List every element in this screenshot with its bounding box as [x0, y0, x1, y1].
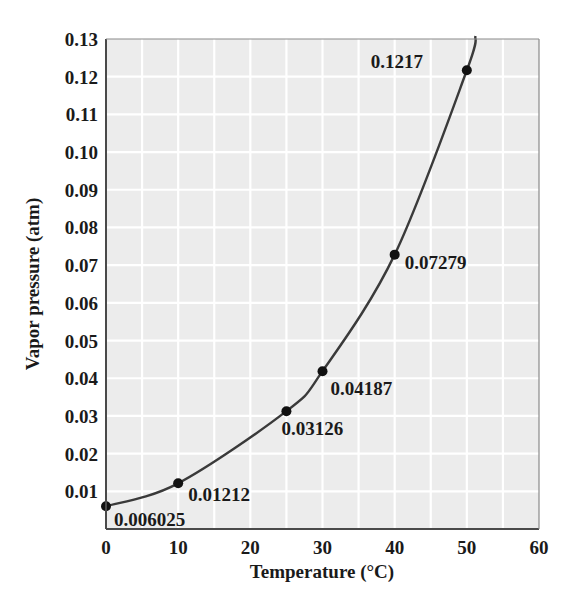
y-tick-label: 0.05	[65, 331, 98, 352]
y-tick-label: 0.07	[65, 255, 99, 276]
x-tick-label: 0	[101, 537, 111, 558]
y-tick-label: 0.09	[65, 180, 98, 201]
y-tick-label: 0.12	[65, 67, 98, 88]
y-axis-ticks: 0.010.020.030.040.050.060.070.080.090.10…	[65, 29, 99, 502]
y-tick-label: 0.13	[65, 29, 98, 50]
data-point	[318, 366, 328, 376]
y-tick-label: 0.02	[65, 444, 98, 465]
y-tick-label: 0.04	[65, 368, 99, 389]
x-tick-label: 20	[241, 537, 260, 558]
data-point-label: 0.04187	[331, 378, 393, 399]
y-tick-label: 0.08	[65, 217, 98, 238]
x-tick-label: 40	[385, 537, 404, 558]
vapor-pressure-chart: 0.0060250.012120.031260.041870.072790.12…	[0, 0, 571, 602]
data-point-label: 0.006025	[114, 509, 185, 530]
y-tick-label: 0.03	[65, 406, 98, 427]
x-tick-label: 50	[457, 537, 476, 558]
x-tick-label: 60	[530, 537, 549, 558]
data-point-label: 0.01212	[188, 484, 250, 505]
data-point-label: 0.07279	[405, 252, 467, 273]
x-axis-title: Temperature (°C)	[250, 561, 394, 583]
data-point	[173, 478, 183, 488]
x-tick-label: 30	[313, 537, 332, 558]
y-axis-title: Vapor pressure (atm)	[22, 198, 44, 370]
data-point	[281, 406, 291, 416]
data-point	[390, 250, 400, 260]
y-tick-label: 0.10	[65, 142, 98, 163]
x-axis-ticks: 0102030405060	[101, 537, 548, 558]
data-point-label: 0.03126	[281, 418, 343, 439]
data-point-label: 0.1217	[371, 51, 424, 72]
data-point	[462, 65, 472, 75]
x-tick-label: 10	[169, 537, 188, 558]
y-tick-label: 0.06	[65, 293, 98, 314]
y-tick-label: 0.01	[65, 481, 98, 502]
y-tick-label: 0.11	[66, 104, 98, 125]
